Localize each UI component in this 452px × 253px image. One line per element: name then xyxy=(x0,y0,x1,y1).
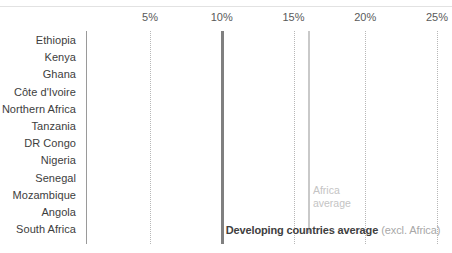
x-tick-10: 10% xyxy=(211,11,233,23)
developing-average-label: Developing countries average xyxy=(226,224,378,236)
category-label: Tanzania xyxy=(0,120,76,132)
bar-row xyxy=(78,225,222,237)
bar-row xyxy=(78,174,298,186)
x-tick-5: 5% xyxy=(142,11,158,23)
category-label: DR Congo xyxy=(0,137,76,149)
x-tick-15: 15% xyxy=(282,11,304,23)
bar-row xyxy=(78,36,415,48)
bar-row xyxy=(78,53,395,65)
category-label: Angola xyxy=(0,206,76,218)
x-tick-20: 20% xyxy=(354,11,376,23)
category-label: Senegal xyxy=(0,172,76,184)
africa-average-annotation: Africa average xyxy=(313,184,351,210)
x-tick-25: 25% xyxy=(426,11,448,23)
bar-row xyxy=(78,88,376,100)
category-label: Northern Africa xyxy=(0,103,76,115)
bar-row xyxy=(78,122,326,134)
developing-average-sublabel: (excl. Africa) xyxy=(381,224,440,236)
category-label: Ghana xyxy=(0,68,76,80)
bar-row xyxy=(78,70,389,82)
top-divider xyxy=(0,6,452,7)
bar-row xyxy=(78,156,302,168)
category-label: South Africa xyxy=(0,223,76,235)
bar-row xyxy=(78,105,369,117)
africa-average-label-line1: Africa xyxy=(313,184,351,197)
category-label: Côte d'Ivoire xyxy=(0,86,76,98)
bar-chart: 5%10%15%20%25% EthiopiaKenyaGhanaCôte d'… xyxy=(0,0,452,253)
bar-row xyxy=(78,191,275,203)
bar-row xyxy=(78,208,243,220)
category-label: Kenya xyxy=(0,51,76,63)
africa-average-label-line2: average xyxy=(313,197,351,210)
category-label: Nigeria xyxy=(0,154,76,166)
category-label: Mozambique xyxy=(0,189,76,201)
category-label: Ethiopia xyxy=(0,34,76,46)
bar-row xyxy=(78,139,315,151)
developing-average-annotation: Developing countries average (excl. Afri… xyxy=(226,224,441,236)
gridline-25 xyxy=(437,31,438,244)
